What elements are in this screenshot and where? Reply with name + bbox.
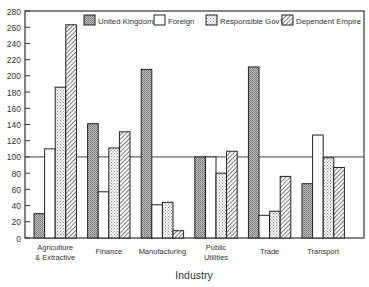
x-category-label: Agriculture bbox=[37, 243, 73, 252]
y-tick-label: 40 bbox=[12, 201, 22, 211]
x-category-label: & Extractive bbox=[35, 253, 75, 262]
legend-label: United Kingdom bbox=[98, 17, 153, 26]
y-tick-label: 120 bbox=[7, 136, 21, 146]
legend-swatch bbox=[282, 15, 293, 25]
legend-swatch bbox=[84, 15, 95, 25]
y-tick-label: 180 bbox=[7, 88, 21, 98]
bar bbox=[227, 151, 238, 238]
bar bbox=[259, 215, 270, 238]
y-tick-label: 100 bbox=[7, 152, 21, 162]
y-axis: 020406080100120140160180200220240260280 bbox=[7, 7, 30, 244]
grouped-bar-chart: 020406080100120140160180200220240260280 … bbox=[0, 0, 369, 287]
bar bbox=[45, 149, 56, 238]
bar bbox=[88, 124, 99, 238]
bar bbox=[55, 87, 66, 238]
y-tick-label: 280 bbox=[7, 7, 21, 17]
bar bbox=[119, 132, 130, 238]
y-tick-label: 0 bbox=[16, 234, 21, 244]
legend-label: Dependent Empire bbox=[296, 17, 361, 26]
x-category-label: Utilities bbox=[204, 253, 228, 262]
x-category-label: Transport bbox=[307, 247, 340, 256]
y-tick-label: 200 bbox=[7, 71, 21, 81]
bar bbox=[205, 157, 216, 238]
bar bbox=[280, 176, 291, 238]
bar bbox=[141, 69, 152, 238]
x-category-label: Public bbox=[206, 243, 227, 252]
y-tick-label: 140 bbox=[7, 120, 21, 130]
y-tick-label: 240 bbox=[7, 39, 21, 49]
bar bbox=[109, 148, 120, 238]
bar bbox=[162, 202, 173, 238]
x-axis-title: Industry bbox=[175, 269, 213, 281]
legend-swatch bbox=[154, 15, 165, 25]
y-tick-label: 220 bbox=[7, 55, 21, 65]
legend-swatch bbox=[206, 15, 217, 25]
bar bbox=[302, 184, 313, 238]
y-tick-label: 260 bbox=[7, 23, 21, 33]
bar bbox=[66, 25, 77, 238]
bars bbox=[34, 25, 344, 238]
x-category-label: Finance bbox=[95, 247, 122, 256]
bar bbox=[195, 157, 206, 238]
bar bbox=[216, 173, 227, 238]
bar bbox=[334, 167, 345, 238]
bar bbox=[313, 135, 324, 238]
bar bbox=[248, 67, 259, 238]
legend-label: Responsible Gov't bbox=[220, 17, 284, 26]
legend-label: Foreign bbox=[168, 17, 194, 26]
bar bbox=[152, 205, 163, 238]
y-tick-label: 160 bbox=[7, 104, 21, 114]
y-tick-label: 20 bbox=[12, 217, 22, 227]
bar bbox=[98, 192, 109, 238]
x-category-label: Manufacturing bbox=[139, 247, 187, 256]
bar bbox=[270, 211, 281, 238]
x-axis-labels: Agriculture& ExtractiveFinanceManufactur… bbox=[35, 243, 340, 262]
bar bbox=[34, 214, 45, 238]
bar bbox=[173, 231, 184, 238]
y-tick-label: 80 bbox=[12, 169, 22, 179]
x-category-label: Trade bbox=[260, 247, 279, 256]
y-tick-label: 60 bbox=[12, 185, 22, 195]
bar bbox=[323, 158, 334, 238]
legend: United KingdomForeignResponsible Gov'tDe… bbox=[84, 15, 361, 26]
